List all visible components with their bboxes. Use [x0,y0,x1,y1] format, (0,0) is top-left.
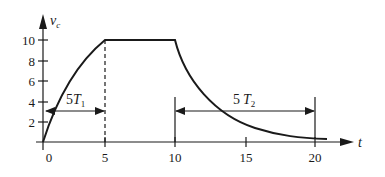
x-tick-label: 0 [46,150,53,165]
x-tick-label: 10 [169,150,182,165]
x-tick-label: 20 [309,150,322,165]
y-axis-arrow-icon [39,14,47,29]
label-5t2: 5T2 [233,92,255,109]
x-tick-labels: 0 5 10 15 20 [46,150,322,165]
y-tick-label: 10 [22,33,35,48]
chart: vc t 10 8 6 4 2 0 5 10 15 20 5T1 [0,0,385,177]
x-axis-label: t [358,135,363,150]
label-5t1: 5T1 [66,92,85,109]
y-tick-labels: 10 8 6 4 2 [22,33,36,130]
x-tick-label: 5 [102,150,109,165]
x-axis-arrow-icon [340,138,354,146]
vc-curve [43,40,327,142]
y-axis-label: vc [50,13,60,30]
y-tick-label: 8 [29,54,36,69]
y-tick-label: 6 [29,74,36,89]
y-tick-label: 4 [29,95,36,110]
y-tick-label: 2 [29,115,36,130]
x-tick-label: 15 [240,150,253,165]
